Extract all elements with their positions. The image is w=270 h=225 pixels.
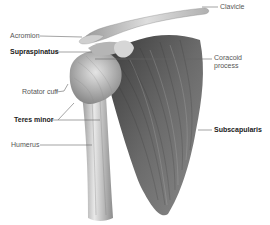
label-coracoid-process: Coracoid process	[214, 54, 242, 70]
clavicle-shape	[85, 8, 208, 42]
label-coracoid-line2: process	[214, 62, 242, 70]
scapula-shape	[110, 35, 203, 215]
shoulder-diagram: Clavicle Acromion Supraspinatus Coracoid…	[0, 0, 270, 225]
shoulder-illustration	[0, 0, 270, 225]
label-subscapularis: Subscapularis	[214, 126, 262, 134]
label-teres-minor: Teres minor	[14, 116, 54, 124]
humerus-shape	[82, 93, 113, 221]
label-rotator-cuff: Rotator cuff	[22, 88, 58, 96]
label-clavicle: Clavicle	[220, 3, 245, 11]
label-coracoid-line1: Coracoid	[214, 54, 242, 62]
label-humerus: Humerus	[11, 141, 39, 149]
label-supraspinatus: Supraspinatus	[10, 48, 59, 56]
label-acromion: Acromion	[10, 32, 40, 40]
